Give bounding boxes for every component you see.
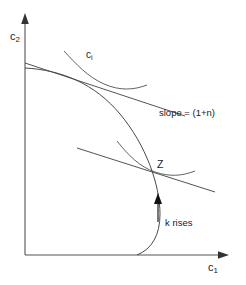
y-axis-label-subscript: 2 (16, 35, 20, 44)
y-axis-arrowhead (21, 13, 29, 24)
x-axis-label-subscript: 1 (214, 266, 218, 275)
consumption-possibility-frontier (25, 68, 160, 255)
k-rises-label: k rises (165, 218, 192, 228)
y-axis-label: c2 (10, 31, 20, 44)
diagram-canvas (0, 0, 246, 285)
figure-container: c2 c1 ci slope = (1+n) Z k rises (0, 0, 246, 285)
indifference-curve-label: ci (86, 50, 93, 61)
indifference-curve-label-subscript: i (91, 53, 93, 62)
indifference-curve-lower (117, 141, 195, 175)
k-rises-arrow-head (154, 193, 162, 204)
indifference-curve-upper (64, 51, 147, 89)
x-axis-arrowhead (218, 251, 229, 259)
slope-annotation: slope = (1+n) (159, 108, 215, 118)
x-axis-label: c1 (208, 262, 218, 275)
point-z-label: Z (157, 159, 163, 170)
